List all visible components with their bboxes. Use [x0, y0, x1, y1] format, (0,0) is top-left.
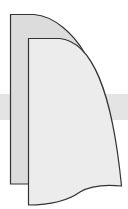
front-page-shape [29, 39, 122, 206]
pages-icon [0, 0, 128, 209]
